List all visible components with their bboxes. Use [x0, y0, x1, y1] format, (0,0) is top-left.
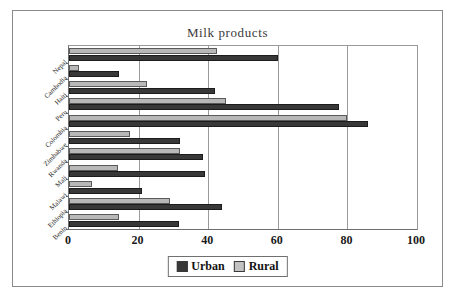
legend-label-rural: Rural [249, 259, 279, 274]
bar-urban-cambodia [69, 71, 119, 77]
bar-group-colombia [69, 113, 417, 130]
bar-group-peru [69, 96, 417, 113]
chart-legend: UrbanRural [167, 256, 287, 277]
bar-urban-mali [69, 171, 205, 177]
x-tick-label-80: 80 [340, 233, 352, 248]
bar-rural-rwanda [69, 148, 180, 154]
x-tick-label-100: 100 [407, 233, 425, 248]
bar-group-zimbabwe [69, 129, 417, 146]
bar-group-rwanda [69, 146, 417, 163]
x-tick-label-20: 20 [132, 233, 144, 248]
bar-rural-colombia [69, 115, 347, 121]
bar-group-benin [69, 212, 417, 229]
legend-swatch-urban-icon [176, 261, 187, 272]
bar-urban-malawi [69, 188, 142, 194]
bar-group-ethiopia [69, 196, 417, 213]
bar-rural-ethiopia [69, 198, 170, 204]
bar-urban-benin [69, 221, 179, 227]
legend-label-urban: Urban [191, 259, 224, 274]
bar-urban-colombia [69, 121, 368, 127]
bar-group-haiti [69, 79, 417, 96]
bar-group-mali [69, 162, 417, 179]
bar-urban-zimbabwe [69, 138, 180, 144]
bar-urban-rwanda [69, 154, 203, 160]
bar-urban-haiti [69, 88, 215, 94]
bar-urban-peru [69, 104, 339, 110]
bar-rural-haiti [69, 81, 147, 87]
legend-swatch-rural-icon [234, 261, 245, 272]
bar-rural-benin [69, 214, 119, 220]
x-tick-label-60: 60 [271, 233, 283, 248]
bar-group-malawi [69, 179, 417, 196]
bar-group-cambodia [69, 63, 417, 80]
bar-rural-mali [69, 165, 118, 171]
bar-group-nepal [69, 46, 417, 63]
bar-rural-cambodia [69, 65, 79, 71]
chart-container: Milk products 020406080100 NepalCambodia… [12, 10, 443, 287]
plot-area [68, 45, 418, 230]
bar-urban-nepal [69, 55, 278, 61]
legend-entry-rural: Rural [234, 259, 279, 274]
chart-title: Milk products [13, 25, 442, 41]
bar-urban-ethiopia [69, 204, 222, 210]
legend-entry-urban: Urban [176, 259, 224, 274]
bar-rural-nepal [69, 48, 217, 54]
x-tick-label-40: 40 [201, 233, 213, 248]
bar-rural-zimbabwe [69, 131, 130, 137]
x-tick-label-0: 0 [65, 233, 71, 248]
bar-rural-malawi [69, 181, 92, 187]
bar-rural-peru [69, 98, 226, 104]
